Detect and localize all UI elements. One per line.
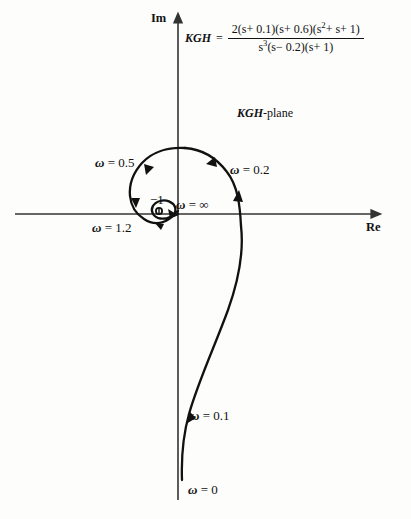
den-part-c: − 0.2)(s bbox=[276, 40, 313, 54]
nyquist-figure: Im Re KGH = 2(s+ 0.1)(s+ 0.6)(s2+ s+ 1) … bbox=[0, 0, 411, 519]
omega-label-0-2: ω = 0.2 bbox=[230, 163, 270, 177]
imaginary-axis-label: Im bbox=[151, 12, 166, 26]
omega-value: ∞ bbox=[199, 197, 208, 212]
omega-label-0-5: ω = 0.5 bbox=[95, 156, 135, 170]
omega-label-0-1: ω = 0.1 bbox=[190, 409, 230, 423]
omega-label-0: ω = 0 bbox=[188, 483, 218, 497]
plane-label: KGH-plane bbox=[237, 107, 293, 120]
nyquist-plot-svg bbox=[0, 0, 411, 519]
plane-label-name: KGH bbox=[237, 106, 263, 120]
omega-symbol: ω bbox=[188, 482, 197, 497]
omega-label-1-2: ω = 1.2 bbox=[92, 221, 132, 235]
omega-value: 0.1 bbox=[213, 408, 229, 423]
den-part-d: + 1) bbox=[313, 40, 333, 54]
critical-point-label: −1 bbox=[150, 193, 164, 207]
num-part-c: + 0.6)(s bbox=[284, 22, 321, 36]
num-part-b: + 0.1)(s bbox=[246, 22, 283, 36]
omega-equals: = bbox=[201, 482, 208, 497]
omega-symbol: ω bbox=[230, 162, 239, 177]
omega-value: 0.2 bbox=[253, 162, 269, 177]
formula-denominator: s3(s− 0.2)(s+ 1) bbox=[254, 39, 337, 55]
omega-value: 0 bbox=[211, 482, 218, 497]
transfer-function-formula: KGH = 2(s+ 0.1)(s+ 0.6)(s2+ s+ 1) s3(s− … bbox=[185, 22, 364, 55]
omega-label-infinity: ω = ∞ bbox=[176, 198, 209, 212]
formula-numerator: 2(s+ 0.1)(s+ 0.6)(s2+ s+ 1) bbox=[228, 22, 364, 38]
formula-equals: = bbox=[216, 31, 223, 46]
num-part-d: + s bbox=[326, 22, 340, 36]
plane-label-suffix: -plane bbox=[263, 106, 293, 120]
formula-lhs: KGH bbox=[185, 31, 211, 46]
omega-equals: = bbox=[189, 197, 196, 212]
omega-equals: = bbox=[243, 162, 250, 177]
formula-fraction: 2(s+ 0.1)(s+ 0.6)(s2+ s+ 1) s3(s− 0.2)(s… bbox=[228, 22, 364, 55]
omega-symbol: ω bbox=[190, 408, 199, 423]
omega-value: 1.2 bbox=[115, 220, 131, 235]
omega-equals: = bbox=[203, 408, 210, 423]
num-part-a: 2(s bbox=[232, 22, 247, 36]
omega-equals: = bbox=[105, 220, 112, 235]
real-axis-label: Re bbox=[366, 221, 381, 235]
omega-symbol: ω bbox=[176, 197, 185, 212]
den-part-b: (s bbox=[267, 40, 276, 54]
num-part-e: + 1) bbox=[340, 22, 360, 36]
omega-symbol: ω bbox=[92, 220, 101, 235]
omega-equals: = bbox=[108, 155, 115, 170]
omega-symbol: ω bbox=[95, 155, 104, 170]
omega-value: 0.5 bbox=[118, 155, 134, 170]
critical-point-marker bbox=[156, 208, 162, 214]
